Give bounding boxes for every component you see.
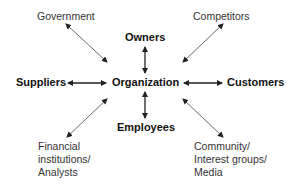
node-suppliers: Suppliers — [16, 77, 66, 88]
node-financial-institutions: Financial institutions/ Analysts — [38, 140, 91, 179]
node-organization: Organization — [112, 77, 179, 88]
arrow-government — [66, 24, 107, 62]
node-customers: Customers — [227, 77, 284, 88]
node-government: Government — [37, 11, 95, 22]
node-owners: Owners — [125, 32, 165, 43]
node-competitors: Competitors — [193, 11, 250, 22]
arrow-competitors — [183, 24, 223, 62]
arrow-community — [183, 99, 223, 137]
node-community: Community/ Interest groups/ Media — [194, 140, 267, 179]
node-employees: Employees — [117, 122, 175, 133]
arrow-financial — [67, 99, 107, 137]
